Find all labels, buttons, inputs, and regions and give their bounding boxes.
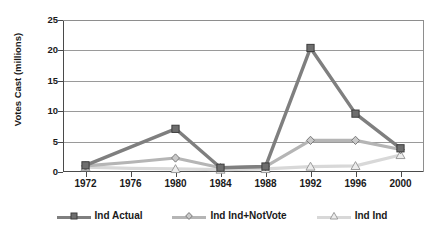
marker-1-1980 xyxy=(172,125,179,132)
legend-label-1: Ind Actual xyxy=(95,210,143,222)
chart-root: Votes Cast (millions) 2520151050 1972197… xyxy=(0,0,444,233)
marker-1-2000 xyxy=(397,145,404,152)
legend-marker-square-icon xyxy=(70,212,78,220)
series-1 xyxy=(82,44,404,171)
legend-marker-shape-2 xyxy=(186,213,193,220)
marker-2-1980 xyxy=(172,154,180,162)
legend-swatch-3 xyxy=(317,211,351,222)
series-line-1 xyxy=(86,48,401,168)
legend-marker-triangle-icon xyxy=(330,212,338,220)
legend-label-2: Ind Ind+NotVote xyxy=(210,210,286,222)
marker-1-1996 xyxy=(352,110,359,117)
legend-item-3[interactable]: Ind Ind xyxy=(317,210,388,222)
marker-1-1992 xyxy=(307,44,314,51)
legend-marker-shape-1 xyxy=(71,213,77,219)
legend-label-3: Ind Ind xyxy=(355,210,388,222)
series-layer xyxy=(0,0,444,233)
legend-item-1[interactable]: Ind Actual xyxy=(57,210,143,222)
legend-marker-diamond-icon xyxy=(185,212,193,220)
marker-2-1996 xyxy=(352,136,360,144)
marker-1-1988 xyxy=(262,163,269,170)
legend-marker-shape-3 xyxy=(330,212,338,219)
legend-swatch-2 xyxy=(172,211,206,222)
marker-1-1972 xyxy=(82,162,89,169)
marker-1-1984 xyxy=(217,164,224,171)
chart-legend: Ind ActualInd Ind+NotVoteInd Ind xyxy=(0,206,444,226)
legend-item-2[interactable]: Ind Ind+NotVote xyxy=(172,210,286,222)
legend-swatch-1 xyxy=(57,211,91,222)
